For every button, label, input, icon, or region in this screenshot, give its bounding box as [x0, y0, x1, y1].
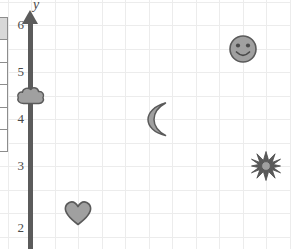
gridline-horizontal	[0, 2, 291, 3]
gridline-horizontal	[0, 237, 291, 238]
gridline-vertical	[219, 0, 220, 249]
y-tick-label-4: 4	[8, 112, 24, 125]
gridline-horizontal	[0, 190, 291, 191]
y-tick-5: 5	[4, 65, 24, 78]
marker-sun-star-icon	[251, 151, 281, 181]
gridline-vertical	[102, 0, 103, 249]
marker-cloud-icon	[15, 84, 47, 108]
coordinate-plane-figure: y 6 5 4 3 2	[0, 0, 291, 249]
gridline-horizontal	[0, 72, 291, 73]
y-tick-label-3: 3	[8, 159, 24, 172]
side-table-row	[0, 85, 7, 107]
side-table	[0, 17, 8, 152]
y-axis-line	[28, 22, 33, 249]
gridline-horizontal	[0, 25, 291, 26]
y-tick-label-2: 2	[8, 221, 24, 234]
gridline-horizontal	[0, 213, 291, 214]
y-axis-label: y	[33, 0, 39, 13]
gridline-vertical	[55, 0, 56, 249]
marker-smiley-face-icon	[227, 33, 259, 65]
y-tick-label-5: 5	[8, 65, 24, 78]
gridline-horizontal	[0, 166, 291, 167]
marker-heart-icon	[63, 199, 93, 227]
side-table-row	[0, 40, 7, 62]
side-table-row	[0, 130, 7, 152]
y-tick-2: 2	[4, 221, 24, 234]
gridline-vertical	[196, 0, 197, 249]
y-tick-4: 4	[4, 112, 24, 125]
gridline-horizontal	[0, 143, 291, 144]
gridline-vertical	[125, 0, 126, 249]
y-tick-6: 6	[4, 18, 24, 31]
y-tick-label-6: 6	[8, 18, 24, 31]
y-tick-3: 3	[4, 159, 24, 172]
gridline-vertical	[266, 0, 267, 249]
gridline-vertical	[290, 0, 291, 249]
marker-crescent-moon-icon	[143, 100, 173, 138]
